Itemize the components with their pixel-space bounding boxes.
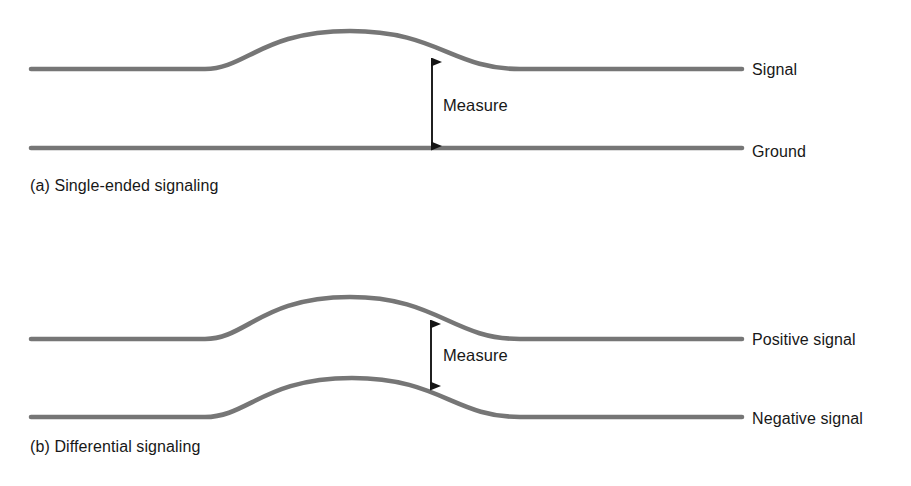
trace-positive-signal [31, 297, 742, 339]
caption-differential: (b) Differential signaling [30, 439, 200, 455]
caption-single-ended: (a) Single-ended signaling [30, 178, 219, 194]
trace-signal [31, 31, 742, 69]
panel-single-ended [31, 31, 742, 148]
signaling-figure: Signal Ground Measure (a) Single-ended s… [0, 0, 911, 486]
panel-differential [31, 297, 742, 417]
label-signal: Signal [752, 62, 797, 78]
label-measure-differential: Measure [443, 347, 508, 364]
trace-negative-signal [31, 378, 742, 417]
label-negative-signal: Negative signal [752, 411, 863, 427]
label-measure-single-ended: Measure [443, 97, 508, 114]
label-positive-signal: Positive signal [752, 332, 856, 348]
label-ground: Ground [752, 144, 806, 160]
